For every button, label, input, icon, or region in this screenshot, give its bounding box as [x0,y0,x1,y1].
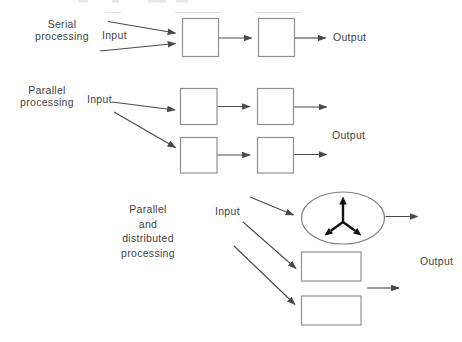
input-label-parallel: Input [87,94,112,106]
serial-processor-box-1 [183,19,219,57]
serial-processor-box-2 [259,19,295,57]
output-label-parallel: Output [332,130,365,142]
section-label-parallel: Parallel processing [20,85,74,108]
parallel-processor-box-row2-1 [181,138,218,174]
section-label-serial-line2: processing [35,31,89,43]
section-label-serial-line1: Serial [35,19,89,31]
distributed-input-arrow-3 [234,246,295,305]
distributed-processor-box-2 [302,296,362,325]
scan-artifact [78,0,301,13]
output-label-distributed: Output [420,256,453,268]
section-label-serial: Serial processing [35,19,89,42]
parallel-processor-box-row2-2 [258,138,294,174]
distributed-input-arrow-1 [250,197,294,215]
output-label-serial: Output [333,32,366,44]
processing-types-diagram: Serial processing Input Output Parallel … [0,0,462,342]
parallel-input-arrow-bottom [114,112,176,148]
parallel-processor-box-row1-2 [258,89,294,125]
serial-input-arrow-bottom [100,44,176,52]
parallel-processor-box-row1-1 [181,89,218,125]
diagram-canvas [0,0,462,342]
section-label-distributed-line2: and [121,217,175,232]
input-label-distributed: Input [215,206,240,218]
distributed-processor-box-1 [302,252,362,281]
input-label-serial: Input [102,30,127,42]
section-label-distributed-line4: processing [121,246,175,261]
parallel-input-arrow-top [112,102,175,110]
section-label-distributed-line1: Parallel [121,202,175,217]
section-label-distributed: Parallel and distributed processing [121,202,175,260]
section-label-distributed-line3: distributed [121,231,175,246]
section-label-parallel-line2: processing [20,97,74,109]
section-label-parallel-line1: Parallel [20,85,74,97]
